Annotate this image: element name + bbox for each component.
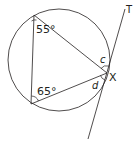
- angle-arc-c: [101, 66, 109, 69]
- angle-label-d: d: [92, 80, 99, 91]
- angle-label-55: 55°: [36, 23, 56, 36]
- angle-label-c: c: [100, 54, 106, 65]
- circle: [8, 9, 110, 111]
- point-label-x: X: [109, 71, 117, 84]
- circle-theorem-diagram: 55° 65° c d X T: [0, 0, 140, 141]
- tangent-line: [88, 9, 125, 139]
- angle-label-65: 65°: [37, 85, 57, 98]
- point-label-t: T: [125, 4, 133, 15]
- angle-arc-d: [101, 76, 106, 81]
